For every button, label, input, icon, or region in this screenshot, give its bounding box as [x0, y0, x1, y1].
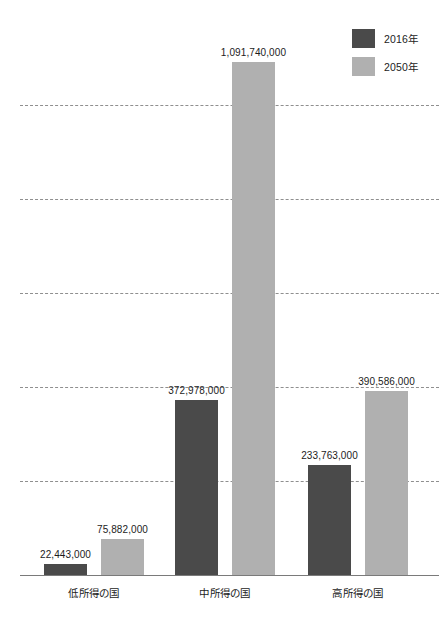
bar-2050-2 [365, 391, 408, 575]
bar-2016-1 [175, 400, 218, 575]
bar-value-label: 22,443,000 [21, 549, 111, 560]
bar-value-label: 75,882,000 [78, 524, 168, 535]
bar-2050-0 [101, 539, 144, 575]
bar-value-label: 1,091,740,000 [209, 47, 299, 58]
bar-value-label: 390,586,000 [342, 376, 432, 387]
category-label-1: 中所得の国 [175, 585, 275, 600]
gridline [20, 293, 439, 294]
plot-area: 22,443,00075,882,000372,978,0001,091,740… [0, 0, 447, 619]
gridline [20, 105, 439, 106]
category-label-0: 低所得の国 [44, 585, 144, 600]
bar-2016-0 [44, 564, 87, 575]
bar-2016-2 [308, 465, 351, 575]
category-label-2: 高所得の国 [308, 585, 408, 600]
bar-2050-1 [232, 62, 275, 575]
gridline [20, 199, 439, 200]
bar-value-label: 372,978,000 [152, 385, 242, 396]
axis-baseline [20, 575, 439, 576]
bar-chart: 2016年 2050年 22,443,00075,882,000372,978,… [0, 0, 447, 619]
bar-value-label: 233,763,000 [285, 450, 375, 461]
